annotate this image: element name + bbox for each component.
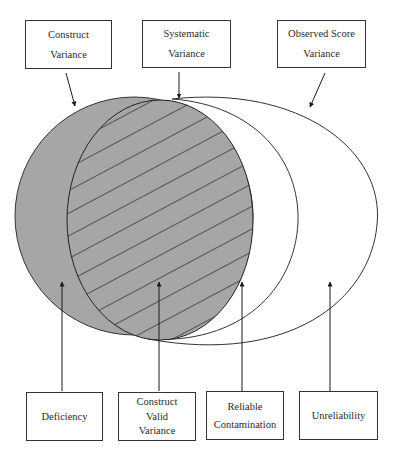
- observed-score-variance-label: Observed Score Variance: [277, 20, 366, 68]
- arrow-observed-score-variance: [310, 73, 325, 107]
- arrow-construct-variance: [66, 73, 75, 106]
- construct-valid-variance-label: Construct Valid Variance: [118, 392, 196, 441]
- construct-variance-label: Construct Variance: [25, 20, 112, 69]
- reliable-contamination-label: Reliable Contamination: [206, 391, 284, 440]
- systematic-variance-label: Systematic Variance: [142, 20, 231, 68]
- unreliability-label: Unreliability: [299, 391, 378, 440]
- deficiency-label: Deficiency: [26, 392, 103, 441]
